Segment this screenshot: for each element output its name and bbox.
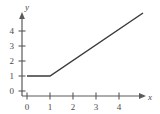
x-tick-label-4: 4 — [117, 102, 122, 112]
y-tick-label-1: 1 — [10, 71, 15, 81]
piecewise-linear-plot: 0 1 2 3 4 0 1 2 3 4 y x — [0, 0, 160, 114]
x-tick-label-0: 0 — [25, 102, 30, 112]
figure-container: 0 1 2 3 4 0 1 2 3 4 y x — [0, 0, 160, 114]
y-tick-label-4: 4 — [10, 26, 15, 36]
x-axis-name-label: x — [147, 92, 152, 102]
y-tick-label-0: 0 — [10, 86, 15, 96]
x-tick-label-1: 1 — [48, 102, 53, 112]
x-tick-label-2: 2 — [71, 102, 76, 112]
y-axis-name-label: y — [24, 2, 29, 12]
y-tick-label-2: 2 — [10, 56, 15, 66]
x-tick-label-3: 3 — [94, 102, 99, 112]
y-tick-label-3: 3 — [10, 41, 15, 51]
